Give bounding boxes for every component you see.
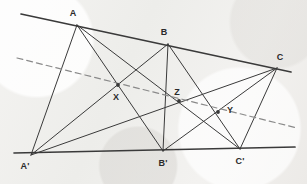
point-label-Y: Y [227, 105, 233, 115]
pappus-diagram: A B C A' B' C' X Y Z [0, 0, 307, 184]
point-label-Z: Z [174, 87, 180, 97]
bottom-line [14, 147, 295, 153]
point-label-X: X [113, 92, 119, 102]
point-label-A: A [70, 8, 77, 18]
diagram-canvas [0, 0, 307, 184]
point-label-A-prime: A' [20, 161, 29, 171]
intersection-dot-Z [177, 99, 181, 103]
connector-lines [31, 25, 277, 155]
pappus-dashed-line [17, 58, 297, 128]
connector-C-Ap [31, 68, 277, 155]
intersection-dot-X [116, 83, 120, 87]
intersection-dots [116, 83, 220, 114]
connector-C-Cp [240, 68, 277, 149]
connector-B-Bp [163, 44, 168, 151]
point-label-C: C [277, 52, 284, 62]
point-label-B: B [161, 27, 168, 37]
intersection-dot-Y [216, 110, 220, 114]
point-label-B-prime: B' [158, 158, 167, 168]
connector-B-Ap [31, 44, 168, 155]
connector-A-Ap [31, 25, 77, 155]
connector-A-Bp [77, 25, 163, 151]
point-label-C-prime: C' [235, 156, 244, 166]
pappus-line [17, 58, 297, 128]
connector-C-Bp [163, 68, 277, 151]
top-line [21, 14, 291, 72]
